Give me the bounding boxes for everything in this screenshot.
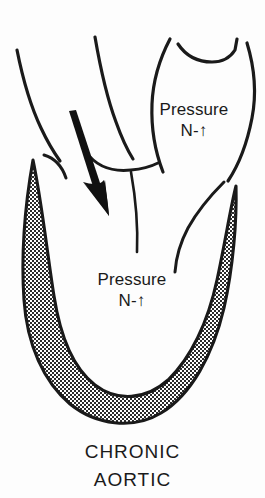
figure-caption: CHRONIC AORTIC: [0, 438, 265, 493]
aortic-pressure-value: N-↑: [139, 121, 249, 141]
figure-root: Pressure N-↑ Pressure N-↑ CHRONIC AORTIC: [0, 0, 265, 498]
ventricular-pressure-text: Pressure: [73, 270, 191, 290]
left-atrium-inner-wall: [95, 37, 133, 159]
right-endocardial-border: [175, 182, 224, 272]
septum-line: [131, 172, 137, 252]
caption-line-1: CHRONIC: [0, 438, 265, 466]
regurgitant-flow-arrow: [69, 110, 109, 216]
aortic-pressure-text: Pressure: [139, 100, 249, 120]
left-atrium-outer-wall: [17, 50, 60, 161]
mitral-valve-anterior-leaflet: [86, 152, 158, 170]
caption-line-2: AORTIC: [0, 466, 265, 494]
aortic-pressure-label: Pressure N-↑: [139, 100, 249, 141]
mitral-valve-posterior-leaflet: [44, 155, 66, 178]
heart-diagram: [0, 0, 265, 498]
ventricular-pressure-value: N-↑: [73, 291, 191, 311]
aortic-valve-cusps: [178, 39, 237, 62]
ventricular-pressure-label: Pressure N-↑: [73, 270, 191, 311]
